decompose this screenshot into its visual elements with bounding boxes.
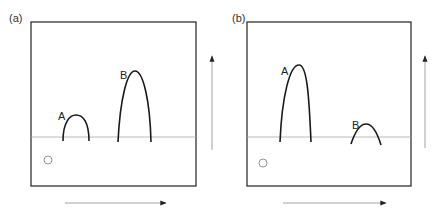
panel-a-peak-b-label: B	[120, 69, 127, 81]
panel-b-origin-circle-icon	[259, 159, 267, 167]
panel-a-origin-circle-icon	[44, 156, 52, 164]
panel-a: (a) A B	[9, 12, 212, 203]
panel-b: (b) A B	[232, 12, 425, 203]
panel-b-frame	[247, 22, 411, 186]
panel-a-frame	[31, 22, 196, 186]
panel-a-peak-a-label: A	[58, 110, 66, 122]
panel-b-peak-b-label: B	[352, 119, 359, 131]
panel-b-label: (b)	[232, 12, 245, 24]
panel-b-peak-a-label: A	[281, 65, 289, 77]
two-panel-diagram: (a) A B (b) A B	[0, 0, 440, 210]
panel-a-label: (a)	[9, 12, 22, 24]
panel-a-peak-b	[118, 71, 151, 142]
